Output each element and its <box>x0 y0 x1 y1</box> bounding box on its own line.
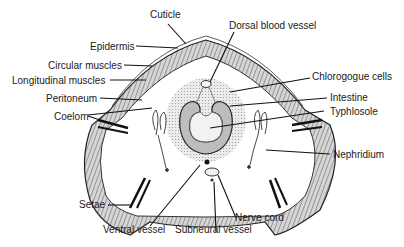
label-ventral-vessel: Ventral vessel <box>103 224 165 235</box>
label-longitudinal-muscles: Longitudinal muscles <box>12 75 105 86</box>
label-nerve-cord: Nerve cord <box>235 212 284 223</box>
nerve-cord <box>205 168 219 176</box>
label-nephridium: Nephridium <box>333 149 384 160</box>
label-setae: Setae <box>79 199 106 210</box>
label-peritoneum: Peritoneum <box>46 93 97 104</box>
dorsal-blood-vessel <box>201 81 211 88</box>
ventral-vessel <box>205 160 210 165</box>
label-circular-muscles: Circular muscles <box>48 60 122 71</box>
label-epidermis: Epidermis <box>90 41 134 52</box>
subneural-vessel <box>210 178 213 181</box>
label-cuticle: Cuticle <box>150 9 181 20</box>
label-subneural-vessel: Subneural vessel <box>175 224 252 235</box>
label-intestine: Intestine <box>330 92 368 103</box>
label-dorsal-blood-vessel: Dorsal blood vessel <box>229 20 316 31</box>
label-coelom: Coelom <box>54 111 88 122</box>
earthworm-cross-section-diagram: Cuticle Epidermis Circular muscles Longi… <box>0 0 404 247</box>
label-chlorogogue-cells: Chlorogogue cells <box>312 71 392 82</box>
label-typhlosole: Typhlosole <box>330 106 378 117</box>
